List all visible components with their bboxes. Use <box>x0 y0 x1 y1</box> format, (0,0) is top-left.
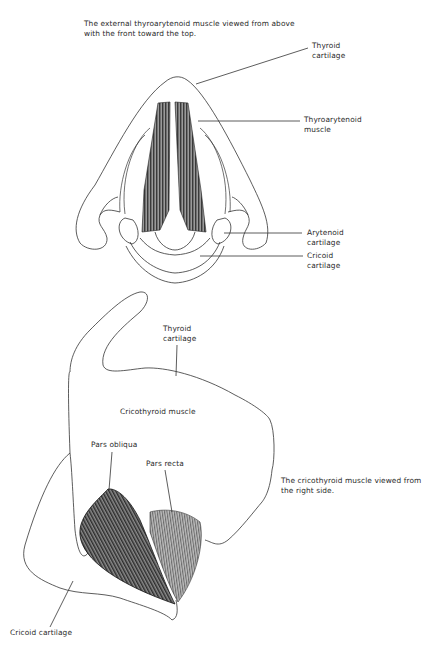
label-thyroid-cartilage-top: Thyroid cartilage <box>312 41 345 61</box>
label-thyroid-cartilage-side: Thyroid cartilage <box>163 324 196 344</box>
label-pars-obliqua: Pars obliqua <box>91 440 137 450</box>
cricoid-arytenoid-top <box>119 218 231 283</box>
label-pars-recta: Pars recta <box>146 459 184 469</box>
label-cricoid-cartilage-top: Cricoid cartilage <box>307 251 340 271</box>
thyroarytenoid-diagram <box>0 0 424 650</box>
bottom-caption: The cricothyroid muscle viewed from the … <box>281 476 421 496</box>
thyroid-cartilage-outline-top <box>76 77 268 249</box>
leader-lines-top <box>196 48 308 256</box>
label-arytenoid-cartilage: Arytenoid cartilage <box>307 228 344 248</box>
label-cricoid-cartilage-side: Cricoid cartilage <box>10 628 72 638</box>
label-thyroarytenoid-muscle: Thyroarytenoid muscle <box>304 115 362 135</box>
inner-cartilage-arcs <box>120 128 231 214</box>
thyroarytenoid-muscle-bands <box>142 102 206 232</box>
label-cricothyroid-muscle: Cricothyroid muscle <box>120 407 196 417</box>
